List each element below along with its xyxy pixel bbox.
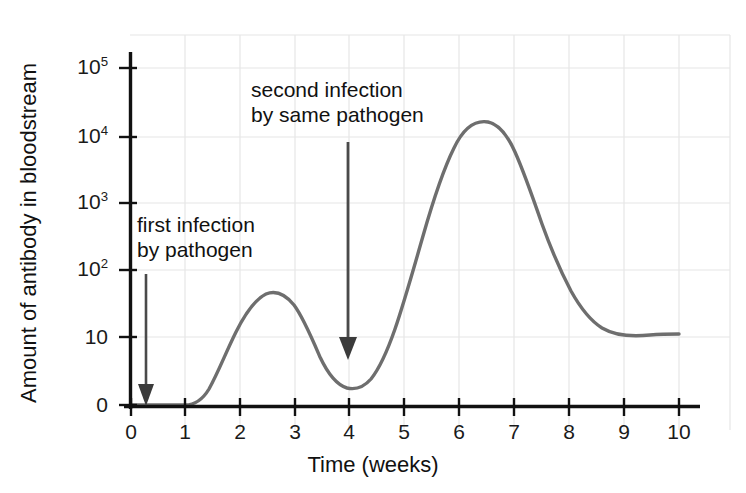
x-tick-label-10: 10	[659, 421, 699, 442]
second-infection-arrow	[339, 142, 357, 360]
first-infection-line-2: by pathogen	[137, 237, 255, 262]
x-tick-label-8: 8	[549, 421, 589, 442]
horizontal-gridlines	[130, 35, 730, 337]
x-tick-label-3: 3	[275, 421, 315, 442]
first-infection-line-1: first infection	[137, 212, 255, 237]
x-tick-label-2: 2	[220, 421, 260, 442]
first-infection-arrow	[138, 274, 154, 406]
x-tick-label-6: 6	[439, 421, 479, 442]
x-tick-label-0: 0	[111, 421, 151, 442]
x-tick-label-4: 4	[329, 421, 369, 442]
second-infection-line-1: second infection	[251, 77, 424, 102]
antibody-curve	[131, 122, 679, 405]
antibody-response-chart: 105 104 103 102 10 0 0 1 2 3 4 5 6 7 8 9…	[0, 0, 746, 493]
x-tick-label-1: 1	[165, 421, 205, 442]
x-tick-label-5: 5	[384, 421, 424, 442]
y-axis-ticks	[119, 68, 137, 405]
second-infection-annotation: second infection by same pathogen	[251, 77, 424, 127]
second-infection-line-2: by same pathogen	[251, 102, 424, 127]
y-axis-title: Amount of antibody in bloodstream	[16, 23, 42, 443]
chart-plot-area	[0, 0, 746, 493]
first-infection-annotation: first infection by pathogen	[137, 212, 255, 262]
x-tick-label-9: 9	[604, 421, 644, 442]
x-axis-title: Time (weeks)	[0, 452, 746, 478]
x-tick-label-7: 7	[494, 421, 534, 442]
